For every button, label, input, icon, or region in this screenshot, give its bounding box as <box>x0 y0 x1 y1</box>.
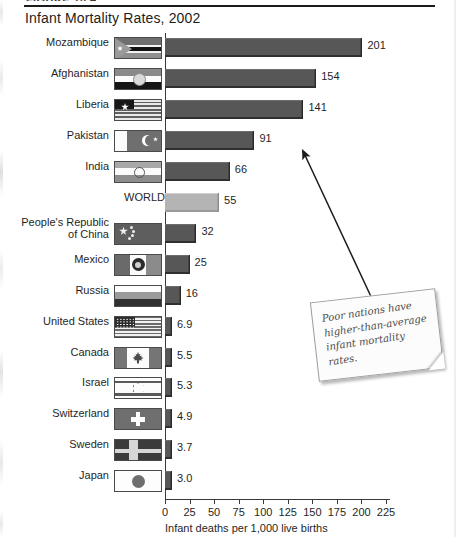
x-tick-label: 100 <box>254 506 272 518</box>
country-label: Afghanistan <box>0 67 109 79</box>
bar <box>165 378 172 397</box>
annotation-note: Poor nations have higher-than-average in… <box>310 288 444 382</box>
x-tick <box>386 499 387 504</box>
x-tick <box>214 499 215 504</box>
flag-icon <box>114 130 162 152</box>
bar-value-label: 3.0 <box>177 472 192 484</box>
bar-value-label: 5.5 <box>177 349 192 361</box>
bar <box>165 69 316 88</box>
bar <box>165 348 172 367</box>
country-label: Israel <box>0 376 109 388</box>
flag-icon <box>114 37 162 59</box>
bar-value-label: 16 <box>186 287 198 299</box>
flag-icon <box>114 316 162 338</box>
country-label: Mexico <box>0 253 109 265</box>
header-rule <box>24 5 435 7</box>
bar-value-label: 201 <box>367 39 385 51</box>
page-title: Infant Mortality Rates, 2002 <box>25 10 200 26</box>
country-label: India <box>0 160 109 172</box>
chart-row: Israel 5.3 <box>0 376 456 407</box>
x-tick <box>239 499 240 504</box>
x-tick <box>288 499 289 504</box>
flag-icon <box>114 347 162 369</box>
bar-value-label: 4.9 <box>177 410 192 422</box>
x-axis-tick-labels: 0255075100125150175200225 <box>0 506 456 520</box>
x-tick-label: 225 <box>377 506 395 518</box>
figure-tag: FIGURE 10.4 <box>26 0 96 1</box>
bar-value-label: 55 <box>224 194 236 206</box>
flag-icon <box>114 377 162 399</box>
x-tick-label: 75 <box>233 506 245 518</box>
country-label: Sweden <box>0 438 109 450</box>
country-label: Russia <box>0 284 109 296</box>
chart-row: Afghanistan154 <box>0 67 456 98</box>
note-corner-fold-icon <box>426 352 445 371</box>
x-tick <box>190 499 191 504</box>
bar <box>165 471 172 490</box>
country-label: Switzerland <box>0 407 109 419</box>
flag-icon <box>114 99 162 121</box>
flag-icon <box>114 254 162 276</box>
x-axis-label: Infant deaths per 1,000 live births <box>165 522 328 534</box>
flag-icon <box>114 285 162 307</box>
x-tick <box>337 499 338 504</box>
chart-row: Switzerland4.9 <box>0 407 456 438</box>
bar <box>165 440 172 459</box>
flag-icon <box>114 161 162 183</box>
chart-row: Japan3.0 <box>0 469 456 500</box>
bar-value-label: 6.9 <box>177 318 192 330</box>
country-label: Japan <box>0 469 109 481</box>
x-tick <box>361 499 362 504</box>
x-tick-label: 0 <box>162 506 168 518</box>
country-label: United States <box>0 315 109 327</box>
bar <box>165 38 362 57</box>
x-tick-label: 150 <box>303 506 321 518</box>
chart-row: Sweden3.7 <box>0 438 456 469</box>
country-label: WORLD <box>5 191 165 203</box>
bar-value-label: 32 <box>201 225 213 237</box>
bar <box>165 162 230 181</box>
chart-row: Mozambique201 <box>0 36 456 67</box>
flag-icon <box>114 439 162 461</box>
x-tick-label: 125 <box>279 506 297 518</box>
callout-arrow-icon <box>290 141 380 311</box>
bar <box>165 409 172 428</box>
bar <box>165 255 190 274</box>
bar <box>165 100 303 119</box>
x-tick <box>263 499 264 504</box>
bar-value-label: 141 <box>308 101 326 113</box>
country-label: Mozambique <box>0 36 109 48</box>
flag-icon <box>114 408 162 430</box>
x-tick-label: 200 <box>352 506 370 518</box>
bar-value-label: 3.7 <box>177 441 192 453</box>
bar-value-label: 91 <box>259 132 271 144</box>
x-tick <box>312 499 313 504</box>
bar-value-label: 66 <box>235 163 247 175</box>
bar-value-label: 154 <box>321 70 339 82</box>
chart-row: Pakistan91 <box>0 129 456 160</box>
x-tick-label: 50 <box>208 506 220 518</box>
bar-value-label: 5.3 <box>177 379 192 391</box>
bar <box>165 193 219 212</box>
bar <box>165 224 196 243</box>
chart-row: Liberia141 <box>0 98 456 129</box>
x-tick-label: 175 <box>328 506 346 518</box>
x-tick <box>165 499 166 504</box>
bar <box>165 317 172 336</box>
flag-icon <box>114 223 162 245</box>
bar <box>165 286 181 305</box>
chart-row: Mexico25 <box>0 253 456 284</box>
flag-icon <box>114 68 162 90</box>
chart-row: People's Republic of China32 <box>0 222 456 253</box>
bar-chart: Mozambique201Afghanistan154Liberia141Pak… <box>0 33 456 503</box>
country-label: Pakistan <box>0 129 109 141</box>
country-label: Liberia <box>0 98 109 110</box>
chart-row: India66 <box>0 160 456 191</box>
x-tick-label: 25 <box>183 506 195 518</box>
bar-value-label: 25 <box>195 256 207 268</box>
bar <box>165 131 254 150</box>
country-label: People's Republic of China <box>0 216 109 240</box>
country-label: Canada <box>0 346 109 358</box>
flag-icon <box>114 470 162 492</box>
